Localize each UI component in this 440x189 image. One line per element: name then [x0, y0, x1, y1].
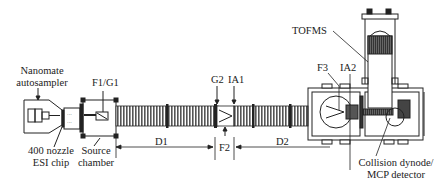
label-detector-line2: MCP detector [352, 169, 440, 181]
label-nanomate-line1: Nanomate [12, 65, 72, 77]
label-ia2: IA2 [340, 62, 356, 74]
label-detector: Collision dynode/ MCP detector [352, 157, 440, 181]
nanomate-autosampler [24, 88, 62, 133]
svg-text:···: ··· [67, 120, 72, 125]
label-f1g1: F1/G1 [92, 77, 119, 89]
label-d1: D1 [155, 136, 168, 148]
label-tofms: TOFMS [292, 25, 327, 37]
svg-text:···: ··· [67, 112, 72, 117]
drift-tube [116, 104, 308, 128]
label-esi-line2: ESI chip [20, 157, 82, 169]
label-detector-line1: Collision dynode/ [352, 157, 440, 169]
label-source-chamber: Source chamber [76, 145, 116, 169]
label-nanomate: Nanomate autosampler [12, 65, 72, 89]
label-esi-chip: 400 nozzle ESI chip [20, 145, 82, 169]
label-source-line2: chamber [76, 157, 116, 169]
analyzer-chamber [308, 84, 424, 144]
label-g2: G2 [211, 74, 224, 86]
label-nanomate-line2: autosampler [12, 77, 72, 89]
label-esi-line1: 400 nozzle [20, 145, 82, 157]
label-source-line1: Source [76, 145, 116, 157]
tofms-column [362, 9, 398, 108]
label-f3: F3 [317, 62, 328, 74]
label-f2: F2 [219, 142, 230, 154]
label-ia1: IA1 [228, 74, 244, 86]
source-chamber [80, 91, 118, 146]
label-d2: D2 [276, 136, 289, 148]
